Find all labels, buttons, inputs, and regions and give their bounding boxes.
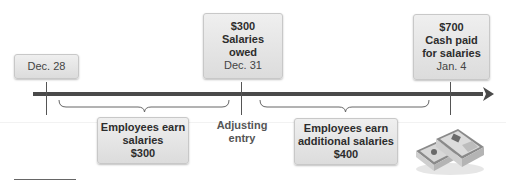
period-text: additional salaries [298,135,394,148]
label-line: entry [213,132,271,145]
event-title: for salaries [422,47,481,60]
amount: $300 [131,147,155,160]
amount: $700 [439,21,463,34]
brace-period-1 [58,98,231,114]
amount: $300 [231,20,255,33]
period-text: Employees earn [101,121,185,134]
amount: $400 [334,148,358,161]
event-title: Salaries [222,33,264,46]
period-text: salaries [123,134,164,147]
date-label: Jan. 4 [437,60,467,73]
arrow-right-icon [482,86,496,102]
event-title: owed [229,46,257,59]
tick-dec28 [46,82,47,115]
tick-jan4 [450,82,451,115]
period-text: Employees earn [304,122,388,135]
timeline-axis [33,92,483,96]
period-box-earn-400: Employees earn additional salaries $400 [294,118,398,165]
event-box-salaries-owed: $300 Salaries owed Dec. 31 [203,13,283,79]
footnote-rule [14,179,76,180]
event-title: Cash paid [425,34,478,47]
adjusting-entry-label: Adjusting entry [213,119,271,145]
tick-dec31 [241,82,242,115]
date-label: Dec. 28 [28,60,66,73]
brace-period-2 [259,98,432,114]
date-box-dec28: Dec. 28 [14,54,79,79]
money-stack-icon [412,125,488,177]
date-label: Dec. 31 [224,59,262,72]
event-box-cash-paid: $700 Cash paid for salaries Jan. 4 [413,14,490,80]
period-box-earn-300: Employees earn salaries $300 [97,117,189,164]
label-line: Adjusting [213,119,271,132]
